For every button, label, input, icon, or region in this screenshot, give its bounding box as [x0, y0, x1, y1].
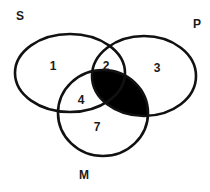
set-label-m: M — [79, 168, 89, 182]
region-label-s-only: 1 — [50, 59, 57, 73]
region-label-p-only: 3 — [154, 61, 161, 75]
region-label-s-and-m: 4 — [78, 93, 85, 107]
set-label-s: S — [16, 9, 24, 23]
set-label-p: P — [193, 17, 201, 31]
region-label-m-only: 7 — [94, 120, 101, 134]
region-label-s-and-p: 2 — [103, 59, 110, 73]
venn-diagram: S P M 1 2 3 4 7 — [0, 0, 210, 192]
